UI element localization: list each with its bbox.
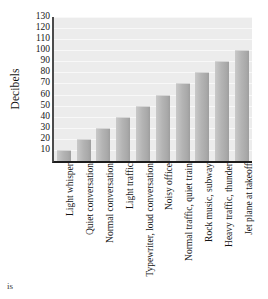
- bar-slot: [153, 17, 173, 161]
- y-axis-tick-label: 70: [24, 79, 50, 89]
- bar-chart-figure: Decibels 102030405060708090100110120130 …: [0, 0, 268, 299]
- y-axis-tick-label: 20: [24, 134, 50, 144]
- bar-slot: [133, 17, 153, 161]
- x-tick-slot: Jet plane at takeoff: [230, 163, 250, 289]
- x-axis-tick-labels: Light whisperQuiet conversationNormal co…: [52, 163, 250, 289]
- y-axis-tick-label: 130: [24, 12, 50, 22]
- x-tick-slot: Normal traffic, quiet train: [171, 163, 191, 289]
- bar-slot: [113, 17, 133, 161]
- y-axis-title: Decibels: [6, 52, 24, 126]
- bar[interactable]: [215, 61, 229, 161]
- bar-slot: [173, 17, 193, 161]
- bar-slot: [232, 17, 252, 161]
- bar[interactable]: [235, 50, 249, 161]
- y-axis-title-text: Decibels: [9, 68, 21, 109]
- x-tick-slot: Quiet conversation: [72, 163, 92, 289]
- bar[interactable]: [195, 72, 209, 161]
- x-tick-slot: Noisy office: [151, 163, 171, 289]
- bar[interactable]: [136, 106, 150, 161]
- bar-slot: [54, 17, 74, 161]
- y-axis-tick-label: 40: [24, 112, 50, 122]
- bar-slot: [212, 17, 232, 161]
- x-tick-slot: Rock music, subway: [191, 163, 211, 289]
- y-axis-tick-label: 110: [24, 34, 50, 44]
- page-text-fragment: is: [7, 281, 13, 291]
- bar[interactable]: [156, 95, 170, 161]
- x-tick-slot: Light traffic: [111, 163, 131, 289]
- y-axis-tick-label: 80: [24, 68, 50, 78]
- bar[interactable]: [116, 117, 130, 161]
- x-tick-slot: Normal conversation: [92, 163, 112, 289]
- y-axis-tick-label: 90: [24, 57, 50, 67]
- y-axis-tick-label: 50: [24, 101, 50, 111]
- bar[interactable]: [77, 139, 91, 161]
- x-axis-tick-label: Jet plane at takeoff: [244, 163, 254, 235]
- bar-slot: [94, 17, 114, 161]
- bar-slot: [74, 17, 94, 161]
- y-axis-tick-label: 120: [24, 23, 50, 33]
- bar[interactable]: [176, 83, 190, 161]
- x-tick-slot: Heavy traffic, thunder: [210, 163, 230, 289]
- y-axis-tick-labels: 102030405060708090100110120130: [24, 13, 50, 161]
- y-axis-tick-label: 100: [24, 45, 50, 55]
- x-tick-slot: Light whisper: [52, 163, 72, 289]
- bar[interactable]: [57, 150, 71, 161]
- y-axis-tick-label: 30: [24, 123, 50, 133]
- plot-area: [52, 17, 252, 163]
- y-axis-tick-label: 60: [24, 90, 50, 100]
- bar[interactable]: [96, 128, 110, 161]
- x-tick-slot: Typewriter, loud conversation: [131, 163, 151, 289]
- bar-series: [54, 17, 252, 161]
- bar-slot: [193, 17, 213, 161]
- y-axis-tick-label: 10: [24, 145, 50, 155]
